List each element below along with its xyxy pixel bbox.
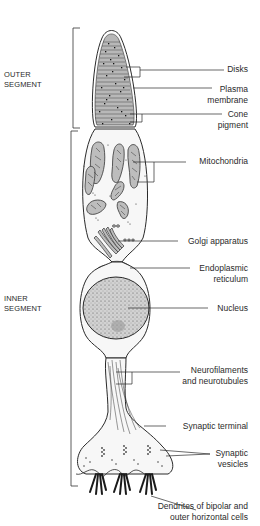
plasma-membrane-line2: membrane bbox=[207, 95, 248, 106]
golgi-text: Golgi apparatus bbox=[188, 236, 248, 247]
disks-stack bbox=[95, 42, 134, 122]
dendrites bbox=[90, 474, 156, 494]
cone-pigment-line1: Cone bbox=[218, 109, 248, 120]
inner-segment-line2: SEGMENT bbox=[4, 304, 42, 314]
dendrites-label: Dendrites of bipolar and outer horizonta… bbox=[158, 501, 248, 522]
inner-segment-line1: INNER bbox=[4, 294, 42, 304]
plasma-membrane-line1: Plasma bbox=[207, 84, 248, 95]
outer-segment-bracket bbox=[73, 28, 80, 128]
synaptic-vesicles-line1: Synaptic bbox=[215, 448, 248, 459]
inner-segment-bracket bbox=[71, 131, 78, 486]
axon-stalk bbox=[78, 358, 173, 474]
inner-segment-label: INNER SEGMENT bbox=[4, 294, 42, 314]
neurofilaments-line1: Neurofilaments bbox=[182, 365, 248, 376]
disks-text: Disks bbox=[227, 64, 248, 75]
dendrites-line2: outer horizontal cells bbox=[158, 512, 248, 523]
plasma-membrane-label: Plasma membrane bbox=[207, 84, 248, 105]
outer-segment-label: OUTER SEGMENT bbox=[4, 70, 42, 90]
nucleus-region bbox=[80, 262, 150, 358]
cone-pigment-label: Cone pigment bbox=[218, 109, 248, 130]
dendrites-line1: Dendrites of bipolar and bbox=[158, 501, 248, 512]
mitochondria-label: Mitochondria bbox=[199, 156, 248, 167]
outer-segment-line1: OUTER bbox=[4, 70, 42, 80]
golgi-apparatus-label: Golgi apparatus bbox=[188, 236, 248, 247]
synaptic-terminal-label: Synaptic terminal bbox=[183, 421, 248, 432]
mitochondria-text: Mitochondria bbox=[199, 156, 248, 167]
er-line2: reticulum bbox=[199, 274, 248, 285]
cone-pigment-line2: pigment bbox=[218, 120, 248, 131]
outer-segment-cone bbox=[92, 31, 136, 128]
synaptic-vesicles-line2: vesicles bbox=[215, 459, 248, 470]
disks-label: Disks bbox=[227, 64, 248, 75]
ellipsoid-region bbox=[83, 129, 148, 262]
synaptic-terminal-text: Synaptic terminal bbox=[183, 421, 248, 432]
outer-segment-line2: SEGMENT bbox=[4, 80, 42, 90]
nucleus-label: Nucleus bbox=[217, 303, 248, 314]
neurofilaments-label: Neurofilaments and neurotubules bbox=[182, 365, 248, 386]
endoplasmic-reticulum-label: Endoplasmic reticulum bbox=[199, 263, 248, 284]
neurofilaments-line2: and neurotubules bbox=[182, 376, 248, 387]
er-line1: Endoplasmic bbox=[199, 263, 248, 274]
synaptic-vesicles-label: Synaptic vesicles bbox=[215, 448, 248, 469]
nucleus-text: Nucleus bbox=[217, 303, 248, 314]
